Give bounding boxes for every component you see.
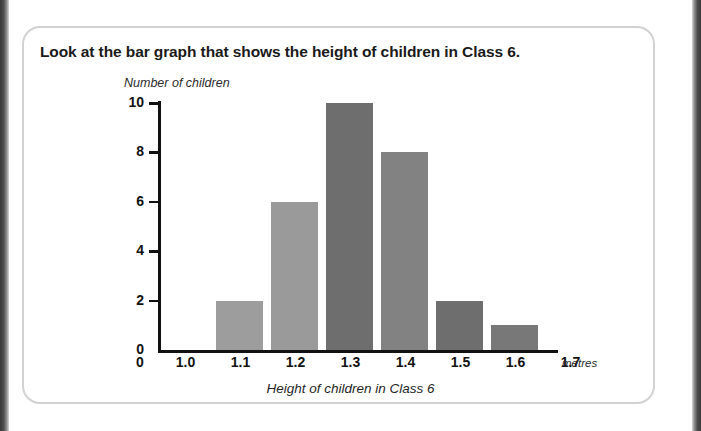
y-axis-tick-label: 10 <box>100 94 144 110</box>
screenshot-page: Look at the bar graph that shows the hei… <box>0 0 701 431</box>
x-axis-tick-label: 1.6 <box>506 354 525 370</box>
y-axis-line <box>158 101 161 352</box>
y-axis-tick-label: 8 <box>100 143 144 159</box>
y-axis-tick <box>149 201 158 204</box>
x-axis-tick-label: 1.3 <box>341 354 360 370</box>
bar-1.5 <box>436 301 483 350</box>
y-axis-tick <box>149 102 158 105</box>
x-axis-line <box>158 350 558 353</box>
y-axis-tick-label: 2 <box>100 292 144 308</box>
x-axis-tick-label: 1.1 <box>231 354 250 370</box>
bar-1.6 <box>491 325 538 350</box>
x-axis-tick-label: 0 <box>136 354 144 370</box>
y-axis-tick-label: 6 <box>100 193 144 209</box>
bar-1.3 <box>326 103 373 350</box>
y-axis-tick <box>149 151 158 154</box>
x-axis-tick-label: 1.2 <box>286 354 305 370</box>
y-axis-tick <box>149 250 158 253</box>
bar-1.4 <box>381 152 428 350</box>
bar-1.2 <box>271 202 318 350</box>
bar-chart: 0246810 01.01.11.21.31.41.51.61.7 metres <box>0 0 701 431</box>
x-axis-units-label: metres <box>562 357 597 369</box>
bar-1.1 <box>216 301 263 350</box>
y-axis-tick <box>149 300 158 303</box>
x-axis-caption: Height of children in Class 6 <box>0 381 701 396</box>
x-axis-tick-label: 1.5 <box>451 354 470 370</box>
y-axis-tick-label: 4 <box>100 242 144 258</box>
x-axis-tick-label: 1.0 <box>176 354 195 370</box>
x-axis-tick-label: 1.4 <box>396 354 415 370</box>
